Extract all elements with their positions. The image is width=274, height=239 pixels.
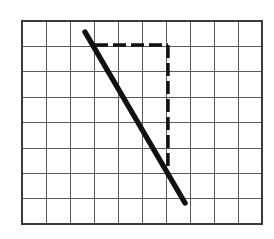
slope-diagram-figure [0, 0, 274, 239]
diagram-canvas [0, 0, 274, 239]
